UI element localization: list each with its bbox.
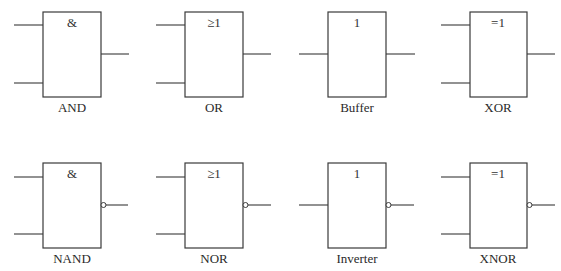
gate-nor: ≥1 NOR bbox=[156, 163, 271, 266]
gate-symbol: =1 bbox=[491, 166, 505, 181]
inversion-bubble-icon bbox=[101, 203, 106, 208]
gate-label: XOR bbox=[484, 100, 512, 115]
inversion-bubble-icon bbox=[527, 203, 532, 208]
inversion-bubble-icon bbox=[243, 203, 248, 208]
gate-symbol: ≥1 bbox=[207, 15, 221, 30]
gate-and: & AND bbox=[14, 12, 129, 115]
logic-gates-diagram: & AND ≥1 OR 1 Buffer =1 XOR & NAND bbox=[0, 0, 561, 271]
gate-buffer: 1 Buffer bbox=[299, 12, 415, 115]
gate-xor: =1 XOR bbox=[441, 12, 555, 115]
gate-label: AND bbox=[58, 100, 86, 115]
gate-label: NOR bbox=[200, 251, 228, 266]
gate-label: NAND bbox=[53, 251, 91, 266]
gate-label: Buffer bbox=[340, 100, 374, 115]
gate-label: Inverter bbox=[336, 251, 378, 266]
gate-symbol: 1 bbox=[354, 166, 361, 181]
gate-label: XNOR bbox=[480, 251, 517, 266]
gate-xnor: =1 XNOR bbox=[441, 163, 555, 266]
gate-symbol: ≥1 bbox=[207, 166, 221, 181]
gate-symbol: & bbox=[67, 166, 77, 181]
gate-symbol: 1 bbox=[354, 15, 361, 30]
gate-symbol: =1 bbox=[491, 15, 505, 30]
inversion-bubble-icon bbox=[386, 203, 391, 208]
gate-nand: & NAND bbox=[14, 163, 128, 266]
gate-symbol: & bbox=[67, 15, 77, 30]
gate-label: OR bbox=[205, 100, 223, 115]
gate-inverter: 1 Inverter bbox=[299, 163, 414, 266]
gate-or: ≥1 OR bbox=[156, 12, 271, 115]
